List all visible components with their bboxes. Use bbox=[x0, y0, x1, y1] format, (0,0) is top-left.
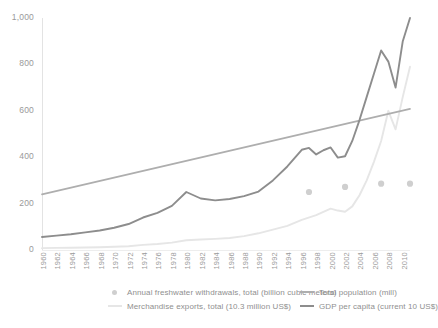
x-axis-tick-text: 1986 bbox=[227, 252, 236, 270]
x-axis-tick-label: 1970 bbox=[111, 252, 120, 270]
x-axis-tick-label: 1968 bbox=[97, 252, 106, 270]
x-axis-tick-text: 2006 bbox=[371, 252, 380, 270]
x-axis-tick-label: 1986 bbox=[227, 252, 236, 270]
series-line bbox=[42, 109, 410, 194]
series-line bbox=[42, 67, 410, 248]
legend-line-icon bbox=[108, 301, 122, 311]
x-axis-tick-label: 2004 bbox=[356, 252, 365, 270]
legend-item[interactable]: GDP per capita (current 10 US$) bbox=[300, 300, 438, 312]
legend-item-label: Merchandise exports, total (10.3 million… bbox=[127, 302, 291, 311]
legend-line-icon bbox=[300, 287, 314, 297]
x-axis-tick-label: 2008 bbox=[385, 252, 394, 270]
x-axis-tick-text: 2008 bbox=[385, 252, 394, 270]
x-axis-tick-label: 1966 bbox=[82, 252, 91, 270]
x-axis-tick-label: 2006 bbox=[371, 252, 380, 270]
x-axis-tick-label: 1984 bbox=[212, 252, 221, 270]
x-axis-tick-label: 1994 bbox=[284, 252, 293, 270]
x-axis-tick-label: 1960 bbox=[39, 252, 48, 270]
x-axis-tick-text: 1988 bbox=[241, 252, 250, 270]
x-axis-tick-label: 1992 bbox=[270, 252, 279, 270]
x-axis-tick-text: 1966 bbox=[82, 252, 91, 270]
x-axis-tick-label: 1980 bbox=[183, 252, 192, 270]
x-axis-tick-text: 2004 bbox=[356, 252, 365, 270]
x-axis-tick-text: 1980 bbox=[183, 252, 192, 270]
x-axis-tick-text: 2010 bbox=[400, 252, 409, 270]
x-axis-tick-label: 1996 bbox=[299, 252, 308, 270]
x-axis-tick-label: 1964 bbox=[68, 252, 77, 270]
data-point-marker bbox=[342, 184, 348, 190]
legend-line-icon bbox=[300, 301, 314, 311]
x-axis-tick-text: 1994 bbox=[284, 252, 293, 270]
x-axis-tick-label: 2000 bbox=[328, 252, 337, 270]
chart-legend: Annual freshwater withdrawals, total (bi… bbox=[0, 286, 416, 316]
x-axis-tick-text: 2002 bbox=[342, 252, 351, 270]
legend-item-label: Total population (mill) bbox=[319, 288, 397, 297]
x-axis-tick-label: 1988 bbox=[241, 252, 250, 270]
x-axis-tick-label: 2010 bbox=[400, 252, 409, 270]
x-axis: 1960196219641966196819701972197419761978… bbox=[42, 252, 410, 286]
x-axis-tick-text: 1978 bbox=[169, 252, 178, 270]
x-axis-tick-text: 1970 bbox=[111, 252, 120, 270]
x-axis-tick-label: 1962 bbox=[53, 252, 62, 270]
x-axis-tick-text: 1990 bbox=[255, 252, 264, 270]
data-point-marker bbox=[378, 181, 384, 187]
legend-column-right: Total population (mill)GDP per capita (c… bbox=[300, 286, 438, 314]
x-axis-tick-text: 1968 bbox=[97, 252, 106, 270]
legend-item[interactable]: Total population (mill) bbox=[300, 286, 438, 298]
x-axis-tick-label: 1976 bbox=[154, 252, 163, 270]
x-axis-tick-text: 2000 bbox=[328, 252, 337, 270]
x-axis-tick-label: 1978 bbox=[169, 252, 178, 270]
x-axis-tick-text: 1960 bbox=[39, 252, 48, 270]
x-axis-tick-text: 1964 bbox=[68, 252, 77, 270]
data-point-marker bbox=[407, 181, 413, 187]
x-axis-tick-text: 1982 bbox=[198, 252, 207, 270]
x-axis-tick-text: 1974 bbox=[140, 252, 149, 270]
x-axis-tick-label: 1998 bbox=[313, 252, 322, 270]
x-axis-tick-label: 1972 bbox=[126, 252, 135, 270]
x-axis-tick-text: 1996 bbox=[299, 252, 308, 270]
x-axis-tick-label: 2002 bbox=[342, 252, 351, 270]
x-axis-tick-label: 1982 bbox=[198, 252, 207, 270]
x-axis-tick-label: 1974 bbox=[140, 252, 149, 270]
legend-item-label: GDP per capita (current 10 US$) bbox=[319, 302, 438, 311]
x-axis-tick-text: 1962 bbox=[53, 252, 62, 270]
x-axis-tick-text: 1998 bbox=[313, 252, 322, 270]
x-axis-tick-label: 1990 bbox=[255, 252, 264, 270]
data-point-marker bbox=[306, 189, 312, 195]
x-axis-tick-text: 1972 bbox=[126, 252, 135, 270]
legend-dot-icon bbox=[108, 287, 122, 297]
x-axis-tick-text: 1976 bbox=[154, 252, 163, 270]
x-axis-tick-text: 1984 bbox=[212, 252, 221, 270]
x-axis-tick-text: 1992 bbox=[270, 252, 279, 270]
